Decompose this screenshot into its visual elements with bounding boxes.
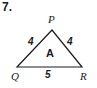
vertex-label-q: Q — [11, 71, 19, 82]
vertex-label-r: R — [80, 71, 87, 82]
side-length-pr: 4 — [67, 37, 73, 47]
region-label-a: A — [46, 48, 54, 59]
side-length-pq: 4 — [28, 37, 34, 47]
side-length-qr: 5 — [45, 70, 51, 80]
geometry-figure: 7. P Q R 4 4 5 A — [0, 0, 97, 88]
vertex-label-p: P — [48, 14, 55, 25]
